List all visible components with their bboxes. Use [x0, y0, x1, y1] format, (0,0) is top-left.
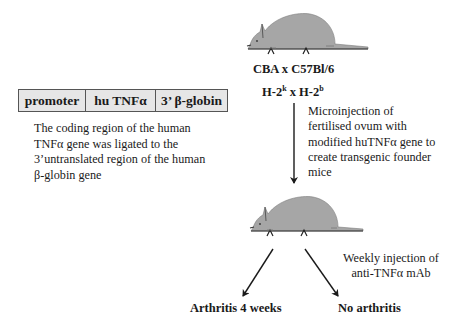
- note-line: Microinjection of: [308, 104, 458, 119]
- segment-label: promoter: [25, 93, 79, 109]
- construct-segment-beta-globin: 3’ β-globin: [155, 90, 227, 111]
- haplotype-separator: x: [287, 85, 300, 99]
- haplotype-label: H-2k x H-2b: [262, 85, 324, 100]
- note-line: anti-TNFα mAb: [326, 266, 456, 281]
- haplotype-b-sup: b: [319, 84, 323, 93]
- description-line: TNFα gene was ligated to the: [34, 137, 234, 153]
- construct-segment-promoter: promoter: [19, 90, 85, 111]
- construct-segment-hu-tnf: hu TNFα: [85, 90, 155, 111]
- description-line: 3’untranslated region of the human: [34, 152, 234, 168]
- segment-label: 3’ β-globin: [161, 93, 222, 109]
- construct-description: The coding region of the human TNFα gene…: [34, 121, 234, 183]
- transgenic-mouse-icon: [250, 197, 363, 236]
- note-line: create transgenic founder: [308, 150, 458, 165]
- gene-construct: promoter hu TNFα 3’ β-globin: [18, 89, 228, 112]
- haplotype-a: H-2: [262, 85, 282, 99]
- strain-label: CBA x C57Bl/6: [253, 62, 334, 77]
- note-line: Weekly injection of: [326, 251, 456, 266]
- note-line: fertilised ovum with: [308, 119, 458, 134]
- outcome-arthritis: Arthritis 4 weeks: [190, 301, 282, 316]
- microinjection-description: Microinjection of fertilised ovum with m…: [308, 104, 458, 180]
- treatment-description: Weekly injection of anti-TNFα mAb: [326, 251, 456, 282]
- donor-mouse-icon: [247, 14, 368, 54]
- description-line: The coding region of the human: [34, 121, 234, 137]
- outcome-no-arthritis: No arthritis: [338, 301, 401, 316]
- note-line: mice: [308, 165, 458, 180]
- segment-label: hu TNFα: [94, 93, 147, 109]
- note-line: modified huTNFα gene to: [308, 135, 458, 150]
- haplotype-b: H-2: [299, 85, 319, 99]
- untreated-outcome-arrow: [243, 249, 273, 296]
- description-line: β-globin gene: [34, 168, 234, 184]
